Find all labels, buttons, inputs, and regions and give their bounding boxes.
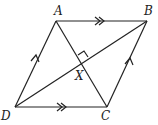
- label-a: A: [54, 5, 63, 17]
- arrow-icon: [125, 58, 133, 65]
- diagram: A B C D X: [0, 0, 158, 125]
- parallelogram-figure: [0, 0, 158, 125]
- label-b: B: [144, 5, 153, 17]
- arrow-icon: [31, 55, 39, 62]
- label-d: D: [1, 110, 11, 122]
- right-angle-icon: [78, 51, 88, 57]
- label-c: C: [101, 110, 110, 122]
- label-x: X: [75, 70, 84, 82]
